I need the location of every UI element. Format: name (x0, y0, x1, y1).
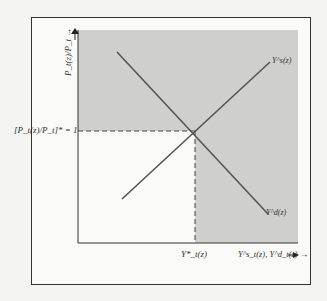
x-axis-label: Y^s_t(z), Y^d_t(z) → (238, 249, 308, 259)
demand-curve-label: Y^d(z) (266, 208, 286, 217)
equilibrium-quantity-label: Y*_t(z) (181, 249, 207, 259)
y-axis-label: P_t(z)/P_t → (63, 28, 73, 77)
equilibrium-price-label: [P_t(z)/P_t]* = 1 (14, 125, 78, 135)
supply-curve-label: Y^s(z) (272, 56, 291, 65)
